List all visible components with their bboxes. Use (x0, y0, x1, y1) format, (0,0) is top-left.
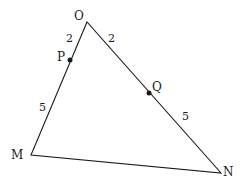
vertex-label-m: M (11, 148, 23, 162)
length-op: 2 (66, 32, 73, 45)
point-label-q: Q (152, 80, 162, 94)
vertex-label-n: N (223, 165, 234, 179)
vertex-label-o: O (74, 9, 84, 23)
length-qn: 5 (182, 110, 189, 123)
triangle-diagram: O M N P Q 2 5 2 5 (0, 0, 245, 187)
triangle-omn (31, 22, 221, 173)
length-pm: 5 (39, 101, 46, 114)
point-q-dot (147, 91, 152, 96)
point-p-dot (68, 58, 73, 63)
length-oq: 2 (108, 32, 115, 45)
point-label-p: P (57, 50, 65, 64)
